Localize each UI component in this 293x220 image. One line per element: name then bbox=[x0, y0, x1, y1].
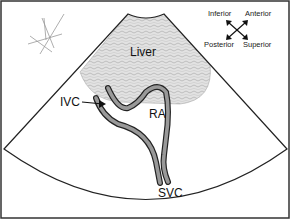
ra-label: RA bbox=[149, 107, 166, 121]
orientation-superior: Superior bbox=[243, 40, 272, 49]
orientation-posterior: Posterior bbox=[204, 40, 235, 49]
ivc-label: IVC bbox=[60, 95, 80, 109]
orientation-anterior: Anterior bbox=[245, 9, 272, 18]
liver-label: Liver bbox=[130, 45, 156, 59]
svc-label: SVC bbox=[158, 186, 183, 200]
diagram-frame: Liver RA IVC SVC Inferior Anterior Poste… bbox=[0, 0, 293, 220]
orientation-inferior: Inferior bbox=[208, 9, 232, 18]
